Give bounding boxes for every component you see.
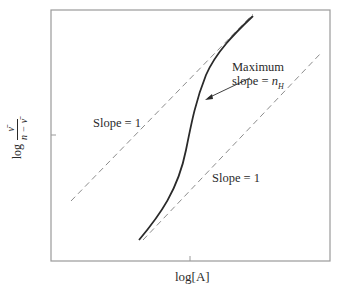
y-axis-log: log xyxy=(10,144,25,159)
annotation-slope-lower: Slope = 1 xyxy=(212,172,260,185)
hill-plot xyxy=(0,0,344,291)
hill-curve xyxy=(139,16,253,240)
y-axis-numerator: ν̄ xyxy=(6,127,17,131)
annotation-slope-upper: Slope = 1 xyxy=(93,117,141,130)
annotation-nh-sub: H xyxy=(278,82,284,91)
max-slope-arrowhead xyxy=(205,94,213,100)
annotation-slope-prefix: slope = xyxy=(232,74,272,88)
y-axis-label: log ν̄ n − ν̄ xyxy=(6,84,28,194)
y-axis-denominator: n − ν̄ xyxy=(17,119,29,140)
plot-frame xyxy=(51,10,330,261)
x-axis-label: log[A] xyxy=(175,270,210,283)
y-axis-fraction: ν̄ n − ν̄ xyxy=(6,119,29,140)
annotation-max-slope: slope = nH xyxy=(232,75,284,91)
annotation-maximum: Maximum xyxy=(232,61,284,74)
